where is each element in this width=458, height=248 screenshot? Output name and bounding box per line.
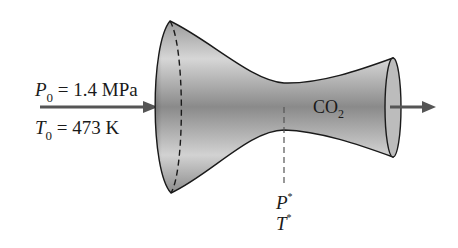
temperature-symbol: T [35, 117, 46, 138]
pressure-subscript: 0 [47, 90, 54, 105]
gas-subscript: 2 [338, 107, 344, 121]
inlet-arrow [40, 101, 158, 113]
gas-formula: CO [313, 97, 338, 117]
throat-temperature-star: * [287, 212, 292, 223]
temperature-subscript: 0 [46, 128, 53, 143]
pressure-symbol: P [35, 79, 47, 100]
pressure-value: = 1.4 MPa [53, 79, 138, 100]
throat-pressure-symbol: P [276, 192, 288, 213]
throat-temperature-symbol: T [276, 213, 287, 234]
throat-pressure-label: P* [276, 193, 293, 212]
inlet-pressure-label: P0 = 1.4 MPa [35, 80, 138, 99]
throat-temperature-label: T* [276, 214, 292, 233]
throat-pressure-star: * [288, 191, 293, 202]
temperature-value: = 473 K [52, 117, 119, 138]
gas-label: CO2 [313, 98, 344, 116]
nozzle-body [155, 21, 401, 193]
inlet-temperature-label: T0 = 473 K [35, 118, 119, 137]
